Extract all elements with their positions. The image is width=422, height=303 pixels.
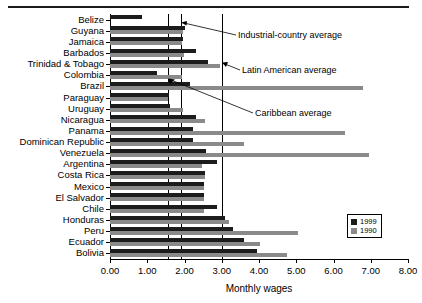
- bar-1990: [110, 142, 244, 146]
- legend-label-1990: 1990: [360, 227, 377, 235]
- bar-1999: [110, 15, 142, 19]
- x-axis-tick-label: 6.00: [314, 266, 354, 276]
- bar-1990: [110, 30, 183, 34]
- bar-1990: [110, 75, 182, 79]
- x-axis-tick-label: 2.00: [165, 266, 205, 276]
- bar-1990: [110, 231, 298, 235]
- bar-1990: [110, 119, 205, 123]
- x-axis-tick: [222, 259, 223, 263]
- y-axis-label-chile: Chile: [0, 204, 104, 214]
- legend-swatch-1999: [351, 219, 357, 225]
- bar-group: [110, 82, 408, 92]
- y-axis-label-brazil: Brazil: [0, 81, 104, 91]
- x-axis-tick: [185, 259, 186, 263]
- y-axis-label-el-salvador: El Salvador: [0, 193, 104, 203]
- annotation-latin-american-average: Latin American average: [242, 65, 337, 75]
- bar-group: [110, 193, 408, 203]
- legend-item-1999: 1999: [351, 217, 377, 226]
- bar-1990: [110, 41, 182, 45]
- x-axis-tick-label: 7.00: [351, 266, 391, 276]
- bar-1990: [110, 175, 205, 179]
- y-axis-label-paraguay: Paraguay: [0, 93, 104, 103]
- bar-group: [110, 171, 408, 181]
- x-axis-tick: [296, 259, 297, 263]
- x-axis-tick: [334, 259, 335, 263]
- y-axis-label-uruguay: Uruguay: [0, 104, 104, 114]
- bar-1990: [110, 53, 184, 57]
- y-axis-label-dominican-republic: Dominican Republic: [0, 137, 104, 147]
- y-axis-label-peru: Peru: [0, 226, 104, 236]
- bar-group: [110, 249, 408, 259]
- annotation-caribbean-average: Caribbean average: [255, 108, 332, 118]
- x-axis-tick: [408, 259, 409, 263]
- x-axis-tick: [147, 259, 148, 263]
- y-axis-label-panama: Panama: [0, 126, 104, 136]
- bar-group: [110, 205, 408, 215]
- y-axis-label-bolivia: Bolivia: [0, 248, 104, 258]
- y-axis-label-jamaica: Jamaica: [0, 37, 104, 47]
- bar-1990: [110, 108, 183, 112]
- bar-1990: [110, 64, 220, 68]
- y-axis-label-ecuador: Ecuador: [0, 237, 104, 247]
- x-axis-tick-label: 1.00: [127, 266, 167, 276]
- legend: 1999 1990: [347, 214, 382, 238]
- bar-1990: [110, 186, 204, 190]
- x-axis-tick: [259, 259, 260, 263]
- bar-group: [110, 182, 408, 192]
- bar-1990: [110, 253, 287, 257]
- y-axis-label-honduras: Honduras: [0, 215, 104, 225]
- bar-1990: [110, 131, 345, 135]
- y-axis-label-guyana: Guyana: [0, 26, 104, 36]
- x-axis-tick: [110, 259, 111, 263]
- bar-1990: [110, 97, 168, 101]
- x-axis-tick-label: 4.00: [239, 266, 279, 276]
- bar-group: [110, 93, 408, 103]
- x-axis-tick-label: 8.00: [388, 266, 422, 276]
- y-axis-label-colombia: Colombia: [0, 70, 104, 80]
- bar-group: [110, 149, 408, 159]
- y-axis-label-barbados: Barbados: [0, 48, 104, 58]
- bar-1990: [110, 197, 204, 201]
- bar-1990: [110, 242, 260, 246]
- y-axis-label-nicaragua: Nicaragua: [0, 115, 104, 125]
- legend-label-1999: 1999: [360, 218, 377, 226]
- bar-1990: [110, 153, 369, 157]
- y-axis-label-argentina: Argentina: [0, 159, 104, 169]
- y-axis-label-belize: Belize: [0, 15, 104, 25]
- bar-1990: [110, 164, 202, 168]
- bar-group: [110, 127, 408, 137]
- bar-group: [110, 49, 408, 59]
- y-axis-label-costa-rica: Costa Rica: [0, 170, 104, 180]
- bar-group: [110, 138, 408, 148]
- x-axis-tick: [371, 259, 372, 263]
- y-axis-label-trinidad-tobago: Trinidad & Tobago: [0, 59, 104, 69]
- bar-1990: [110, 209, 204, 213]
- x-axis-tick-label: 3.00: [202, 266, 242, 276]
- x-axis-tick-label: 5.00: [276, 266, 316, 276]
- bar-1990: [110, 86, 363, 90]
- bar-group: [110, 15, 408, 25]
- y-axis-label-venezuela: Venezuela: [0, 148, 104, 158]
- x-axis-title: Monthly wages: [110, 283, 408, 294]
- legend-swatch-1990: [351, 228, 357, 234]
- bar-1990: [110, 220, 229, 224]
- bar-group: [110, 160, 408, 170]
- annotation-industrial-country-average: Industrial-country average: [238, 30, 342, 40]
- y-axis-label-mexico: Mexico: [0, 182, 104, 192]
- top-rule: [8, 6, 409, 8]
- legend-item-1990: 1990: [351, 226, 377, 235]
- x-axis-tick-label: 0.00: [90, 266, 130, 276]
- bar-group: [110, 238, 408, 248]
